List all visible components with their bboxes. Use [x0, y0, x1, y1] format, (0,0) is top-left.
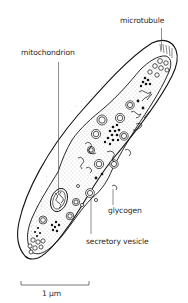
label-mitochondrion: mitochondrion [21, 49, 75, 57]
scale-bar [21, 281, 89, 285]
label-secretory-vesicle: secretory vesicle [86, 238, 149, 246]
label-glycogen: glycogen [108, 207, 142, 215]
scale-bar-label: 1 µm [42, 290, 61, 298]
label-microtubule: microtubule [120, 17, 164, 25]
cell-diagram: microtubule mitochondrion glycogen secre… [0, 0, 188, 303]
cell-illustration [0, 0, 188, 303]
